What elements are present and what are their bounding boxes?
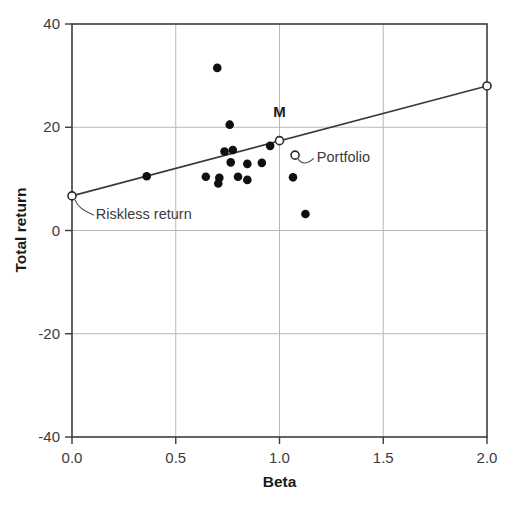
data-point [234, 173, 243, 182]
y-tick-label: -40 [38, 428, 60, 445]
data-point [243, 176, 252, 185]
data-point [220, 147, 229, 156]
data-point [142, 172, 151, 181]
data-point [225, 120, 234, 129]
market-portfolio-label: M [273, 103, 286, 120]
security-market-line-chart: 0.00.51.01.52.0 40200-20-40 M Portfolio … [0, 0, 525, 510]
open-data-point [291, 151, 299, 159]
data-point [229, 146, 238, 155]
x-tick-label: 1.0 [269, 449, 290, 466]
data-point [213, 64, 222, 73]
x-tick-label: 1.5 [373, 449, 394, 466]
data-point [226, 158, 235, 167]
y-axis-title: Total return [12, 188, 29, 273]
y-tick-label: 40 [43, 15, 60, 32]
chart-background [0, 0, 525, 510]
x-axis-title: Beta [263, 473, 297, 490]
data-point [301, 210, 310, 219]
data-point [215, 174, 224, 183]
x-tick-label: 2.0 [477, 449, 498, 466]
data-point [243, 160, 252, 169]
y-tick-label: 0 [52, 222, 60, 239]
scatter-chart-figure: 0.00.51.01.52.0 40200-20-40 M Portfolio … [0, 0, 525, 510]
riskless-return-label: Riskless return [96, 206, 192, 222]
data-point [202, 173, 211, 182]
data-point [289, 173, 298, 182]
data-point [266, 142, 275, 151]
data-point [258, 159, 267, 168]
y-tick-label: 20 [43, 118, 60, 135]
portfolio-label: Portfolio [317, 149, 370, 165]
open-data-point [276, 137, 284, 145]
open-data-point [483, 82, 491, 90]
open-data-point [68, 192, 76, 200]
y-tick-label: -20 [38, 325, 60, 342]
x-tick-label: 0.0 [62, 449, 83, 466]
x-tick-label: 0.5 [165, 449, 186, 466]
